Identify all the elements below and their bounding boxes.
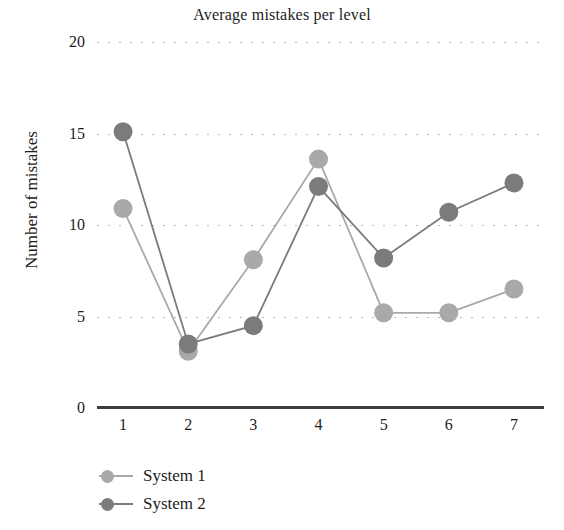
data-point-marker [244, 316, 263, 335]
legend-item[interactable]: System 2 [99, 490, 206, 518]
legend-label: System 2 [143, 494, 206, 514]
data-point-marker [374, 248, 393, 267]
data-point-marker [504, 280, 523, 299]
data-point-marker [114, 122, 133, 141]
legend-marker-icon [99, 468, 133, 484]
legend-dot-icon [101, 470, 114, 483]
data-point-marker [179, 334, 198, 353]
legend-label: System 1 [143, 466, 206, 486]
legend-dot-icon [101, 498, 114, 511]
data-point-marker [114, 199, 133, 218]
data-point-marker [504, 173, 523, 192]
data-point-marker [244, 250, 263, 269]
data-point-marker [309, 150, 328, 169]
legend-item[interactable]: System 1 [99, 462, 206, 490]
legend-marker-icon [99, 496, 133, 512]
data-point-marker [439, 203, 458, 222]
data-point-marker [439, 303, 458, 322]
chart-figure: Average mistakes per level Number of mis… [0, 0, 564, 530]
data-point-marker [309, 177, 328, 196]
data-point-marker [374, 303, 393, 322]
chart-legend: System 1System 2 [99, 462, 206, 518]
series-layer [0, 0, 564, 530]
